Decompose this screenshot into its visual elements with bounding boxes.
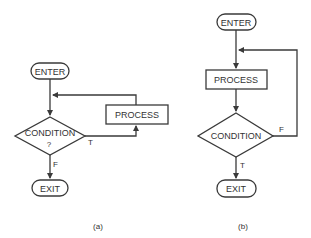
false-label-a: F <box>53 160 58 169</box>
caption-a: (a) <box>93 222 103 231</box>
true-line-a <box>85 126 136 136</box>
caption-b: (b) <box>238 222 248 231</box>
exit-label-a: EXIT <box>40 184 61 194</box>
diagram-b <box>198 14 297 197</box>
exit-label-b: EXIT <box>226 184 247 194</box>
flowcharts: ENTER CONDITION ? PROCESS T F EXIT (a) E… <box>0 0 311 238</box>
false-label-b: F <box>279 125 284 134</box>
true-label-a: T <box>88 138 93 147</box>
enter-label-a: ENTER <box>35 67 66 77</box>
condition-question-a: ? <box>47 140 52 149</box>
true-label-b: T <box>240 161 245 170</box>
process-label-a: PROCESS <box>115 110 159 120</box>
process-label-b: PROCESS <box>214 75 258 85</box>
condition-label-a: CONDITION <box>25 128 76 138</box>
enter-label-b: ENTER <box>221 18 252 28</box>
loop-line-a <box>53 95 136 105</box>
condition-label-b: CONDITION <box>211 131 262 141</box>
